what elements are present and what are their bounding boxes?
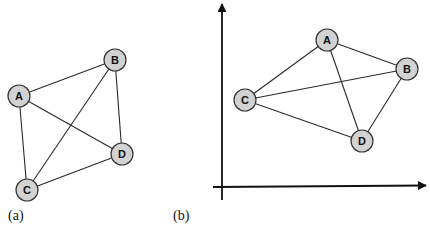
node-a: A xyxy=(8,85,30,107)
panel-label: (a) xyxy=(8,208,24,224)
node-label: A xyxy=(15,90,23,102)
node-b: B xyxy=(104,49,126,71)
edge-a-b xyxy=(327,40,407,69)
edge-b-c xyxy=(245,69,407,100)
node-c: C xyxy=(16,179,38,201)
edge-b-d xyxy=(115,60,122,154)
panel-a: ABCD(a) xyxy=(8,49,133,224)
node-d: D xyxy=(351,130,373,152)
node-label: C xyxy=(23,184,31,196)
graph-diagram: ABCD(a) ABCD(b) xyxy=(0,0,430,231)
edge-a-b xyxy=(19,60,115,96)
node-label: A xyxy=(323,34,331,46)
node-label: B xyxy=(111,54,119,66)
edge-a-c xyxy=(19,96,27,190)
edge-c-d xyxy=(27,154,122,190)
node-label: D xyxy=(358,135,366,147)
edge-a-d xyxy=(327,40,362,141)
node-b: B xyxy=(396,58,418,80)
x-axis xyxy=(213,186,426,188)
node-label: C xyxy=(241,94,249,106)
node-c: C xyxy=(234,89,256,111)
edge-a-c xyxy=(245,40,327,100)
node-d: D xyxy=(111,143,133,165)
panel-b: ABCD(b) xyxy=(173,4,426,224)
node-label: B xyxy=(403,63,411,75)
edge-b-d xyxy=(362,69,407,141)
edge-b-c xyxy=(27,60,115,190)
node-a: A xyxy=(316,29,338,51)
node-label: D xyxy=(118,148,126,160)
panel-label: (b) xyxy=(173,208,190,224)
edge-c-d xyxy=(245,100,362,141)
